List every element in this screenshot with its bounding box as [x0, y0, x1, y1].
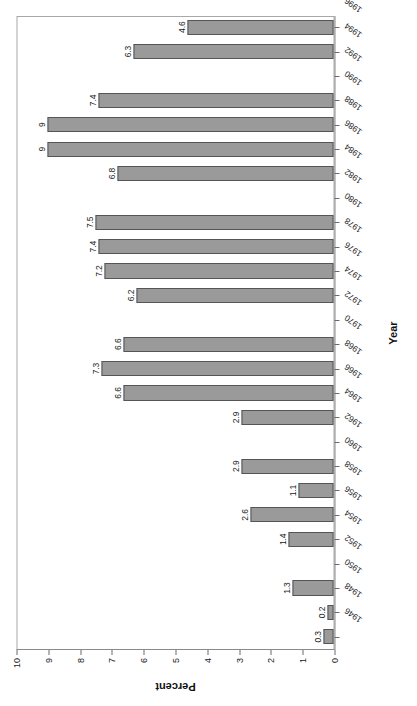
year-tick-1968: [334, 369, 339, 370]
year-tick-1956: [334, 515, 339, 516]
year-tick-1982: [334, 198, 339, 199]
year-tick-1990: [334, 100, 339, 101]
bar-value-label-1978: 7.4: [87, 233, 97, 261]
year-tick-1994: [334, 52, 339, 53]
percent-axis: 012345678910: [16, 649, 334, 650]
year-tick-1996: [334, 27, 339, 28]
bar-1996: [187, 20, 333, 35]
bar-1984: [117, 166, 333, 181]
year-tick-label-1974: 1974: [342, 264, 363, 283]
percent-tick-5: [175, 650, 176, 655]
bar-1946: [323, 629, 333, 644]
bar-1966: [123, 385, 333, 400]
year-tick-label-1970: 1970: [342, 313, 363, 332]
bar-value-label-1960: 2.9: [230, 452, 240, 480]
year-tick-1958: [334, 491, 339, 492]
year-tick-1992: [334, 76, 339, 77]
percent-tick-label-8: 8: [75, 658, 85, 663]
bar-1974: [136, 288, 333, 303]
bar-value-label-1954: 1.4: [277, 525, 287, 553]
bar-value-label-1970: 6.6: [112, 330, 122, 358]
year-tick-label-1962: 1962: [342, 411, 363, 430]
bar-value-label-1996: 4.6: [176, 13, 186, 41]
bar-value-label-1964: 2.9: [230, 403, 240, 431]
year-tick-label-1982: 1982: [342, 167, 363, 186]
bar-1964: [241, 410, 333, 425]
bar-value-label-1980: 7.5: [84, 208, 94, 236]
year-tick-label-1986: 1986: [342, 118, 363, 137]
percent-tick-1: [302, 650, 303, 655]
bar-1956: [250, 507, 333, 522]
chart-rotator: 0.30.21.31.42.61.12.92.96.67.36.66.27.27…: [0, 0, 417, 706]
year-tick-label-1964: 1964: [342, 386, 363, 405]
percent-tick-label-0: 0: [329, 658, 339, 663]
year-tick-1948: [334, 612, 339, 613]
year-tick-1976: [334, 271, 339, 272]
year-tick-1960: [334, 466, 339, 467]
percent-tick-9: [48, 650, 49, 655]
percent-tick-label-9: 9: [43, 658, 53, 663]
year-tick-1946: [334, 637, 339, 638]
year-tick-label-1946: 1946: [342, 606, 363, 625]
year-tick-1952: [334, 564, 339, 565]
year-tick-1962: [334, 442, 339, 443]
bar-value-label-1950: 1.3: [281, 574, 291, 602]
percent-tick-0: [334, 650, 335, 655]
percent-axis-title: Percent: [16, 678, 334, 696]
percent-tick-label-7: 7: [106, 658, 116, 663]
percent-tick-8: [80, 650, 81, 655]
percent-tick-10: [16, 650, 17, 655]
bar-1970: [123, 337, 333, 352]
year-tick-label-1978: 1978: [342, 216, 363, 235]
year-tick-label-1996: 1996: [342, 0, 363, 15]
year-tick-label-1968: 1968: [342, 337, 363, 356]
bar-1976: [104, 264, 333, 279]
year-tick-label-1976: 1976: [342, 240, 363, 259]
bar-1950: [292, 581, 333, 596]
percent-tick-7: [111, 650, 112, 655]
bar-value-label-1974: 6.2: [125, 281, 135, 309]
year-tick-1980: [334, 222, 339, 223]
year-tick-label-1994: 1994: [342, 20, 363, 39]
percent-tick-3: [239, 650, 240, 655]
year-tick-label-1948: 1948: [342, 581, 363, 600]
percent-tick-label-3: 3: [234, 658, 244, 663]
bars-layer: 0.30.21.31.42.61.12.92.96.67.36.66.27.27…: [17, 17, 333, 649]
year-tick-1950: [334, 588, 339, 589]
percent-tick-6: [143, 650, 144, 655]
year-tick-label-1980: 1980: [342, 191, 363, 210]
bar-value-label-1948: 0.2: [316, 598, 326, 626]
bar-value-label-1966: 6.6: [112, 379, 122, 407]
year-tick-label-1990: 1990: [342, 69, 363, 88]
year-tick-1972: [334, 320, 339, 321]
bar-value-label-1958: 1.1: [287, 477, 297, 505]
bar-value-label-1976: 7.2: [93, 257, 103, 285]
year-tick-label-1956: 1956: [342, 484, 363, 503]
percent-tick-2: [270, 650, 271, 655]
bar-1960: [241, 459, 333, 474]
year-tick-label-1984: 1984: [342, 142, 363, 161]
year-axis-title: Year: [386, 16, 398, 650]
bar-value-label-1990: 7.4: [87, 86, 97, 114]
percent-tick-label-2: 2: [265, 658, 275, 663]
year-tick-1966: [334, 393, 339, 394]
year-tick-1988: [334, 125, 339, 126]
bar-1986: [47, 142, 333, 157]
percent-tick-4: [207, 650, 208, 655]
year-tick-1970: [334, 344, 339, 345]
plot-area: 0.30.21.31.42.61.12.92.96.67.36.66.27.27…: [16, 16, 334, 650]
year-tick-label-1972: 1972: [342, 289, 363, 308]
bar-chart-figure: 0.30.21.31.42.61.12.92.96.67.36.66.27.27…: [0, 0, 417, 706]
year-tick-label-1950: 1950: [342, 557, 363, 576]
year-axis: 1946194819501952195419561958196019621964…: [334, 16, 335, 650]
bar-1954: [288, 532, 333, 547]
year-tick-label-1960: 1960: [342, 435, 363, 454]
year-tick-label-1954: 1954: [342, 508, 363, 527]
bar-value-label-1984: 6.8: [106, 160, 116, 188]
bar-1988: [47, 117, 333, 132]
bar-1978: [98, 239, 333, 254]
year-tick-1974: [334, 295, 339, 296]
bar-1968: [101, 361, 333, 376]
bar-value-label-1956: 2.6: [239, 501, 249, 529]
year-tick-label-1966: 1966: [342, 362, 363, 381]
